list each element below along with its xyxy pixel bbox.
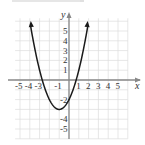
- x-tick-label: 1: [76, 81, 81, 91]
- y-tick-label: 1: [63, 65, 68, 75]
- x-tick-label: 4: [106, 81, 111, 91]
- y-tick-label: 2: [63, 55, 68, 65]
- x-tick-label: -4: [25, 81, 33, 91]
- y-axis-arrow-icon: [67, 12, 72, 18]
- y-tick-label: -4: [60, 114, 68, 124]
- x-tick-label: -1: [54, 81, 62, 91]
- y-tick-label: 5: [63, 26, 68, 36]
- x-tick-label: -5: [15, 81, 23, 91]
- y-tick-label: 3: [63, 46, 68, 56]
- x-axis-label: x: [134, 80, 140, 91]
- y-tick-label: -5: [60, 124, 68, 134]
- parabola-graph: xy-5-4-3-11234554321-2-4-5: [0, 0, 145, 145]
- x-tick-label: -3: [35, 81, 43, 91]
- x-tick-label: 5: [116, 81, 121, 91]
- x-tick-label: 3: [96, 81, 101, 91]
- y-tick-label: 4: [63, 36, 68, 46]
- y-axis-label: y: [60, 9, 66, 20]
- x-tick-label: 2: [86, 81, 91, 91]
